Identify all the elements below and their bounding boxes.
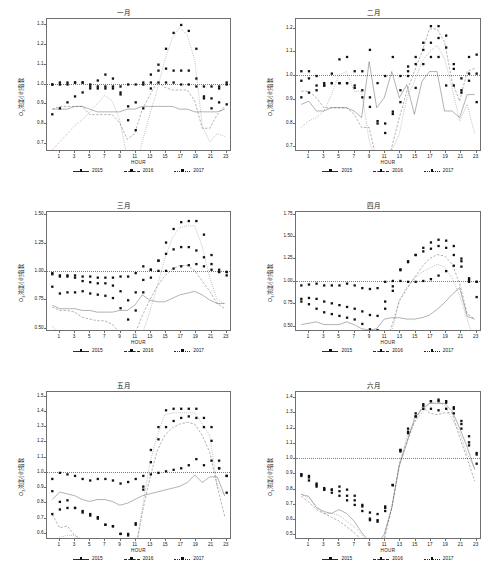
data-point-marker bbox=[430, 241, 432, 243]
chart-legend: 201520162017 bbox=[46, 348, 231, 353]
data-point-marker bbox=[384, 510, 386, 512]
data-point-marker bbox=[476, 463, 478, 465]
data-point-marker bbox=[172, 69, 174, 71]
y-axis-tick-mark bbox=[44, 533, 46, 534]
data-point-marker bbox=[135, 309, 137, 311]
data-point-marker bbox=[150, 269, 152, 271]
data-point-marker bbox=[119, 290, 121, 292]
data-point-marker bbox=[376, 513, 378, 515]
x-axis-tick-mark bbox=[308, 539, 309, 541]
data-point-marker bbox=[142, 291, 144, 293]
legend-swatch-icon bbox=[373, 556, 389, 561]
x-axis-tick-mark bbox=[150, 539, 151, 541]
x-axis-tick-mark bbox=[180, 151, 181, 153]
data-point-marker bbox=[476, 72, 478, 74]
x-axis-tick-mark bbox=[476, 151, 477, 153]
data-point-marker bbox=[119, 533, 121, 535]
legend-label: 2016 bbox=[143, 556, 154, 561]
x-axis-tick-mark bbox=[74, 151, 75, 153]
y-axis-tick-mark bbox=[293, 99, 295, 100]
x-axis-tick-mark bbox=[135, 151, 136, 153]
data-point-marker bbox=[195, 220, 197, 222]
data-point-marker bbox=[66, 507, 68, 509]
data-point-marker bbox=[180, 265, 182, 267]
data-point-marker bbox=[453, 63, 455, 65]
data-point-marker bbox=[81, 91, 83, 93]
data-point-marker bbox=[323, 300, 325, 302]
data-point-marker bbox=[218, 101, 220, 103]
data-point-marker bbox=[127, 299, 129, 301]
plot-frame bbox=[295, 211, 481, 331]
plot-frame bbox=[46, 211, 231, 331]
data-point-marker bbox=[460, 420, 462, 422]
data-point-marker bbox=[142, 279, 144, 281]
data-point-marker bbox=[376, 120, 378, 122]
data-point-marker bbox=[203, 233, 205, 235]
data-point-marker bbox=[346, 56, 348, 58]
legend-swatch-icon bbox=[174, 168, 190, 173]
data-point-marker bbox=[331, 492, 333, 494]
data-point-marker bbox=[468, 435, 470, 437]
data-point-marker bbox=[407, 70, 409, 72]
x-axis-tick-mark bbox=[308, 151, 309, 153]
data-point-marker bbox=[384, 122, 386, 124]
data-point-marker bbox=[142, 475, 144, 477]
legend-swatch-icon bbox=[174, 556, 190, 561]
data-point-marker bbox=[437, 239, 439, 241]
data-point-marker bbox=[300, 300, 302, 302]
legend-item: 2017 bbox=[424, 348, 454, 353]
data-point-marker bbox=[422, 49, 424, 51]
x-axis-tick-mark bbox=[323, 331, 324, 333]
data-point-marker bbox=[203, 256, 205, 258]
data-point-marker bbox=[112, 85, 114, 87]
data-point-marker bbox=[157, 426, 159, 428]
data-point-marker bbox=[460, 89, 462, 91]
y-axis-tick-mark bbox=[293, 326, 295, 327]
legend-item: 2017 bbox=[174, 556, 204, 561]
legend-label: 2017 bbox=[443, 556, 454, 561]
data-point-marker bbox=[468, 441, 470, 443]
legend-label: 2016 bbox=[143, 168, 154, 173]
data-point-marker bbox=[218, 87, 220, 89]
data-point-marker bbox=[66, 291, 68, 293]
data-point-marker bbox=[407, 65, 409, 67]
data-point-marker bbox=[180, 417, 182, 419]
data-point-marker bbox=[59, 472, 61, 474]
chart-panel: 一月0.70.80.91.01.11.21.313579111315171921… bbox=[0, 0, 249, 193]
data-point-marker bbox=[445, 408, 447, 410]
x-axis-tick-mark bbox=[354, 331, 355, 333]
data-point-marker bbox=[172, 469, 174, 471]
legend-label: 2016 bbox=[392, 168, 403, 173]
data-point-marker bbox=[361, 96, 363, 98]
data-point-marker bbox=[407, 260, 409, 262]
legend-item: 2016 bbox=[373, 556, 403, 561]
data-point-marker bbox=[142, 489, 144, 491]
data-point-marker bbox=[453, 68, 455, 70]
data-point-marker bbox=[195, 458, 197, 460]
data-point-marker bbox=[437, 274, 439, 276]
data-point-marker bbox=[74, 95, 76, 97]
data-point-marker bbox=[369, 288, 371, 290]
data-point-marker bbox=[127, 534, 129, 536]
y-axis-tick-mark bbox=[293, 51, 295, 52]
data-point-marker bbox=[89, 83, 91, 85]
data-point-marker bbox=[308, 303, 310, 305]
data-point-marker bbox=[399, 89, 401, 91]
x-axis-tick-mark bbox=[150, 151, 151, 153]
data-point-marker bbox=[74, 81, 76, 83]
data-point-marker bbox=[135, 524, 137, 526]
data-point-marker bbox=[150, 73, 152, 75]
data-point-marker bbox=[142, 485, 144, 487]
data-point-marker bbox=[407, 281, 409, 283]
data-point-marker bbox=[172, 267, 174, 269]
y-axis-tick-mark bbox=[44, 299, 46, 300]
data-point-marker bbox=[361, 323, 363, 325]
x-axis-tick-mark bbox=[211, 331, 212, 333]
data-point-marker bbox=[59, 292, 61, 294]
data-point-marker bbox=[180, 467, 182, 469]
y-axis-tick-mark bbox=[44, 518, 46, 519]
data-point-marker bbox=[331, 313, 333, 315]
data-point-marker bbox=[422, 63, 424, 65]
data-point-marker bbox=[415, 254, 417, 256]
data-point-marker bbox=[59, 275, 61, 277]
